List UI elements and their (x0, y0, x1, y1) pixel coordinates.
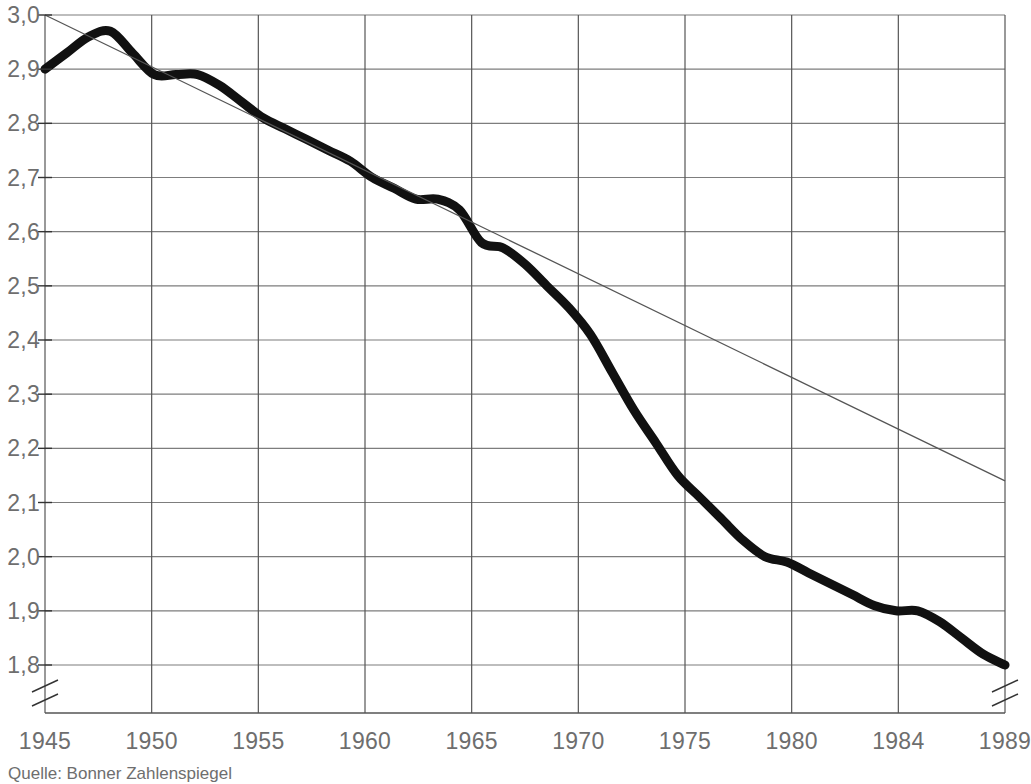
y-axis-tick-label: 2,4 (7, 327, 40, 354)
x-axis-tick-label: 1945 (19, 728, 71, 755)
y-axis-tick-label: 2,8 (7, 110, 40, 137)
x-axis-tick-label: 1975 (659, 728, 711, 755)
source-note: Quelle: Bonner Zahlenspiegel (8, 764, 232, 784)
x-axis-tick-label: 1960 (339, 728, 391, 755)
y-axis-tick-label: 3,0 (7, 2, 40, 29)
x-axis-tick-label: 1989 (979, 728, 1031, 755)
x-axis-tick-label: 1955 (232, 728, 284, 755)
y-axis-tick-label: 2,6 (7, 218, 40, 245)
x-axis-tick-label: 1984 (872, 728, 924, 755)
y-axis-tick-label: 1,9 (7, 597, 40, 624)
x-axis-tick-label: 1950 (125, 728, 177, 755)
data-curve (45, 30, 1005, 665)
y-axis-tick-label: 2,1 (7, 489, 40, 516)
x-axis-tick-label: 1980 (765, 728, 817, 755)
y-axis-tick-label: 2,2 (7, 435, 40, 462)
x-axis-tick-label: 1965 (445, 728, 497, 755)
trend-line (45, 15, 1005, 481)
y-axis-tick-label: 2,5 (7, 272, 40, 299)
y-axis-tick-label: 2,0 (7, 543, 40, 570)
y-axis-tick-label: 2,3 (7, 381, 40, 408)
y-axis-tick-label: 1,8 (7, 652, 40, 679)
y-axis-tick-label: 2,9 (7, 56, 40, 83)
y-axis-tick-label: 2,7 (7, 164, 40, 191)
x-axis-tick-label: 1970 (552, 728, 604, 755)
